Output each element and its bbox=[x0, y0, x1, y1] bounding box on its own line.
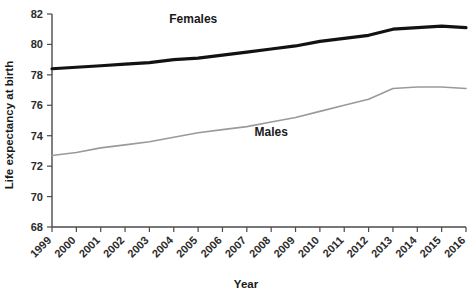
y-tick-label: 78 bbox=[31, 69, 43, 81]
y-tick-label: 68 bbox=[31, 221, 43, 233]
x-tick-label: 2012 bbox=[344, 234, 370, 260]
y-tick-label: 74 bbox=[31, 130, 44, 142]
y-tick-group: 6870727476788082 bbox=[31, 8, 52, 233]
x-tick-label: 2006 bbox=[198, 234, 224, 260]
x-tick-label: 2008 bbox=[247, 234, 273, 260]
x-axis-title: Year bbox=[234, 278, 259, 290]
x-tick-label: 2009 bbox=[271, 234, 297, 260]
series-line-females bbox=[52, 26, 466, 69]
x-tick-label: 1999 bbox=[28, 234, 54, 260]
x-tick-label: 2013 bbox=[369, 234, 395, 260]
x-tick-label: 2011 bbox=[320, 234, 345, 259]
y-tick-label: 76 bbox=[31, 99, 43, 111]
y-tick-label: 80 bbox=[31, 38, 43, 50]
x-tick-label: 2014 bbox=[393, 233, 419, 259]
annotation-group: FemalesMales bbox=[169, 12, 288, 139]
series-line-males bbox=[52, 87, 466, 155]
series-annotation-females: Females bbox=[169, 12, 217, 26]
x-tick-label: 2016 bbox=[442, 234, 468, 260]
x-tick-label: 2015 bbox=[417, 234, 443, 260]
x-tick-label: 2003 bbox=[125, 234, 151, 260]
x-tick-label: 2005 bbox=[174, 234, 200, 260]
y-tick-label: 72 bbox=[31, 160, 43, 172]
chart-canvas: 6870727476788082 19992000200120022003200… bbox=[0, 0, 476, 300]
x-tick-label: 2004 bbox=[149, 233, 175, 259]
x-tick-label: 2007 bbox=[222, 234, 248, 260]
x-tick-label: 2000 bbox=[52, 234, 78, 260]
x-tick-label: 2002 bbox=[101, 234, 127, 260]
x-tick-group: 1999200020012002200320042005200620072008… bbox=[28, 227, 468, 260]
y-tick-label: 70 bbox=[31, 191, 43, 203]
x-tick-label: 2001 bbox=[76, 234, 102, 260]
x-tick-label: 2010 bbox=[295, 234, 321, 260]
y-axis-title: Life expectancy at birth bbox=[3, 61, 15, 189]
series-annotation-males: Males bbox=[254, 125, 288, 139]
y-tick-label: 82 bbox=[31, 8, 43, 20]
life-expectancy-chart: 6870727476788082 19992000200120022003200… bbox=[0, 0, 476, 300]
